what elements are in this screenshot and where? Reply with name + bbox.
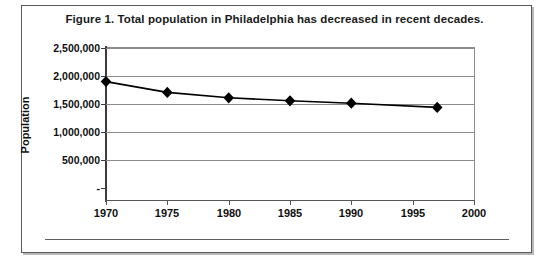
x-axis-label-2000: 2000 bbox=[462, 207, 486, 219]
x-tick-1990 bbox=[351, 200, 352, 205]
x-tick-1975 bbox=[167, 200, 168, 205]
population-line-series bbox=[106, 48, 474, 200]
x-axis-label-1990: 1990 bbox=[339, 207, 363, 219]
x-tick-1995 bbox=[413, 200, 414, 205]
y-axis-label-500000: 500,000 bbox=[30, 154, 100, 166]
population-line bbox=[106, 82, 437, 108]
y-axis-label-2000000: 2,000,000 bbox=[30, 70, 100, 82]
plot-right-border bbox=[474, 47, 475, 201]
x-tick-2000 bbox=[474, 200, 475, 205]
y-axis-label-zero: - bbox=[30, 182, 100, 194]
data-point-1994 bbox=[432, 102, 443, 113]
y-axis-label-1000000: 1,000,000 bbox=[30, 126, 100, 138]
figure-bottom-rule bbox=[45, 239, 509, 240]
x-axis-label-1970: 1970 bbox=[94, 207, 118, 219]
data-point-1990 bbox=[346, 98, 357, 109]
figure-container: Figure 1. Total population in Philadelph… bbox=[0, 0, 549, 262]
x-axis-label-1985: 1985 bbox=[278, 207, 302, 219]
x-tick-1985 bbox=[290, 200, 291, 205]
x-tick-1980 bbox=[229, 200, 230, 205]
population-markers bbox=[101, 76, 443, 113]
x-axis-label-1995: 1995 bbox=[401, 207, 425, 219]
y-axis-labels: 2,500,000 2,000,000 1,500,000 1,000,000 … bbox=[30, 48, 100, 200]
y-axis-label-1500000: 1,500,000 bbox=[30, 98, 100, 110]
data-point-1980 bbox=[223, 92, 234, 103]
data-point-1985 bbox=[285, 95, 296, 106]
x-axis-label-1975: 1975 bbox=[155, 207, 179, 219]
data-point-1975 bbox=[162, 87, 173, 98]
x-tick-1970 bbox=[106, 200, 107, 205]
y-axis-label-2500000: 2,500,000 bbox=[30, 42, 100, 54]
x-axis-label-1980: 1980 bbox=[217, 207, 241, 219]
plot-area bbox=[106, 48, 474, 200]
figure-title: Figure 1. Total population in Philadelph… bbox=[0, 13, 549, 25]
